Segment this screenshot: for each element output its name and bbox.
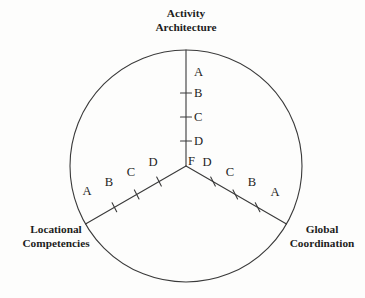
axis-title-global-line2: Coordination (290, 237, 355, 249)
radar-diagram: Activity Architecture Locational Compete… (0, 0, 365, 298)
grade-label-activity-d: D (194, 134, 203, 148)
grade-label-locational-b: B (105, 175, 113, 189)
axis-title-locational-line2: Competencies (22, 237, 90, 249)
grade-label-locational-c: C (127, 165, 135, 179)
tick-global-b (255, 203, 260, 212)
tick-locational-c (134, 190, 139, 199)
tick-global-d (211, 177, 216, 186)
grade-label-global-d: D (202, 155, 211, 169)
tri-axial-grade-figure: Activity Architecture Locational Compete… (0, 0, 365, 298)
grade-label-global-b: B (248, 175, 256, 189)
axis-title-global-line1: Global (306, 223, 339, 235)
grade-label-center-f: F (188, 154, 195, 168)
grade-label-activity-b: B (194, 86, 202, 100)
axis-title-activity-line2: Architecture (155, 21, 216, 33)
tick-global-c (233, 190, 238, 199)
tick-locational-d (157, 177, 162, 186)
grade-label-global-c: C (226, 165, 234, 179)
axis-line-locational-competencies (86, 166, 187, 224)
grade-label-activity-a: A (194, 65, 203, 79)
axis-title-activity-line1: Activity (167, 7, 206, 19)
grade-label-activity-c: C (194, 110, 202, 124)
grade-label-locational-a: A (82, 184, 91, 198)
axis-title-locational-line1: Locational (30, 223, 81, 235)
tick-locational-b (112, 203, 117, 212)
grade-label-locational-d: D (148, 155, 157, 169)
grade-label-global-a: A (270, 185, 279, 199)
